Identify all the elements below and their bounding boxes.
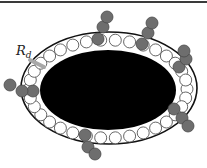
chain-bead xyxy=(92,33,104,45)
ring-bead xyxy=(109,132,121,144)
nanoparticle-diagram: Rd xyxy=(0,0,207,168)
chain-bead xyxy=(182,120,194,132)
ring-bead xyxy=(124,130,136,142)
ring-bead xyxy=(124,36,136,48)
chain-bead xyxy=(136,38,148,50)
ring-bead xyxy=(180,74,192,86)
rd-label: Rd xyxy=(15,43,32,60)
ring-bead xyxy=(160,116,172,128)
particle-core xyxy=(40,50,176,130)
chain-bead xyxy=(4,79,16,91)
ring-bead xyxy=(44,50,56,62)
chain-bead xyxy=(27,85,39,97)
ring-bead xyxy=(109,34,121,46)
chain-bead xyxy=(79,129,91,141)
chain-bead xyxy=(16,85,28,97)
ring-bead xyxy=(150,122,162,134)
ring-bead xyxy=(80,36,92,48)
ring-bead xyxy=(67,127,79,139)
ring-bead xyxy=(54,44,66,56)
chain-bead xyxy=(101,11,113,23)
ring-bead xyxy=(95,132,107,144)
ring-bead xyxy=(54,122,66,134)
ring-bead xyxy=(137,127,149,139)
chain-bead xyxy=(89,148,101,160)
ring-bead xyxy=(67,39,79,51)
ring-bead xyxy=(150,44,162,56)
chain-bead xyxy=(178,45,190,57)
chain-bead xyxy=(146,17,158,29)
